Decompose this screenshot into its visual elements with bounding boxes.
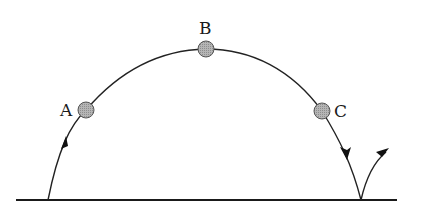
arrow-bounce-icon xyxy=(376,148,389,157)
trajectory-diagram: A B C xyxy=(0,0,422,223)
label-a: A xyxy=(59,100,73,120)
label-c: C xyxy=(334,101,347,121)
trajectory-path xyxy=(48,49,361,200)
ball-b xyxy=(198,41,214,57)
label-b: B xyxy=(199,18,212,38)
ball-a xyxy=(78,102,94,118)
ball-c xyxy=(314,103,330,119)
arrow-down-icon xyxy=(340,147,351,160)
bounce-path xyxy=(361,152,386,200)
